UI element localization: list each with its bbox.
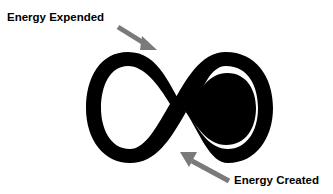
arrow-down-right-icon [118,27,157,50]
infinity-icon [86,52,273,163]
infinity-diagram [0,0,333,194]
